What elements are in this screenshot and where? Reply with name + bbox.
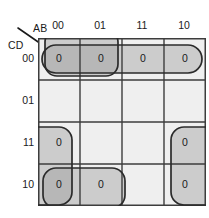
column-header-2: 11 bbox=[122, 19, 162, 31]
cell-r10-c11 bbox=[122, 164, 164, 206]
row-header-0: 00 bbox=[0, 52, 34, 64]
column-header-1: 01 bbox=[80, 19, 120, 31]
cell-r01-c00 bbox=[38, 80, 80, 122]
group-fill-row10-left bbox=[43, 168, 125, 206]
cell-r01-c11 bbox=[122, 80, 164, 122]
cell-r01-c10 bbox=[164, 80, 206, 122]
cell-r01-c01 bbox=[80, 80, 122, 122]
kmap-grid: 0 0 0 0 0 0 0 0 0 bbox=[38, 38, 206, 206]
karnaugh-map-diagram: AB CD 00 01 11 10 00 01 11 10 bbox=[0, 0, 209, 218]
row-variable-label: CD bbox=[8, 39, 24, 51]
row-header-3: 10 bbox=[0, 178, 34, 190]
column-header-0: 00 bbox=[38, 19, 78, 31]
group-fill-col10-bottom bbox=[171, 127, 206, 205]
kmap-grid-svg bbox=[38, 38, 206, 206]
row-header-1: 01 bbox=[0, 94, 34, 106]
column-header-3: 10 bbox=[164, 19, 204, 31]
cell-r11-c11 bbox=[122, 122, 164, 164]
cell-r11-c01 bbox=[80, 122, 122, 164]
row-header-2: 11 bbox=[0, 136, 34, 148]
group-fill-row00-left bbox=[45, 38, 118, 76]
